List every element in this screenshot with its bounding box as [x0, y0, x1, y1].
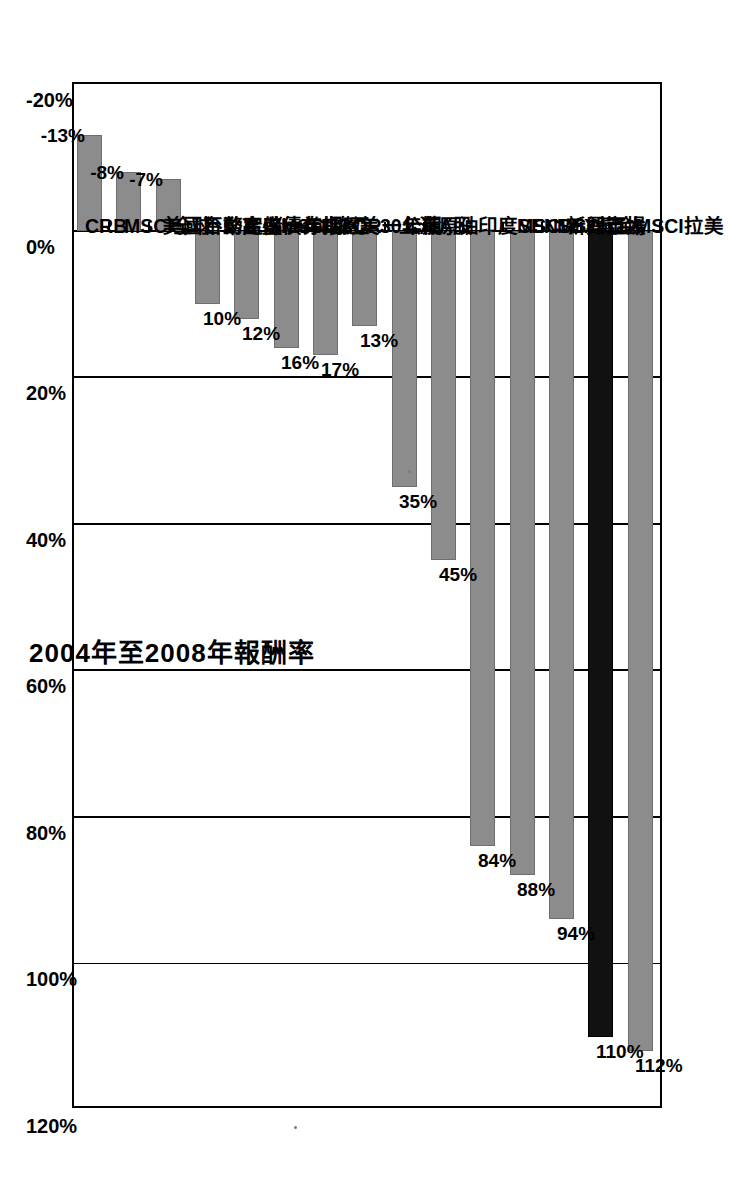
- value-axis-label: 80%: [26, 823, 66, 843]
- rotated-chart-canvas: CRBMSCI全球美國不動產iShare台幣定儲一年期高盛債券指數MSCI歐亞L…: [0, 0, 729, 1192]
- bar: [313, 231, 338, 356]
- value-axis-label: 0%: [26, 237, 55, 257]
- value-label: 112%: [635, 1056, 683, 1075]
- value-label: 84%: [478, 851, 516, 870]
- value-label: 94%: [557, 924, 595, 943]
- value-label: 16%: [281, 353, 319, 372]
- bar: [471, 231, 496, 847]
- scan-artifact-dot: [294, 1126, 297, 1129]
- bar: [392, 231, 417, 488]
- chart-title: 2004年至2008年報酬率: [29, 640, 315, 666]
- value-axis-label: 20%: [26, 383, 66, 403]
- bar: [589, 231, 614, 1037]
- bar: [353, 231, 378, 326]
- value-label: -13%: [40, 126, 84, 145]
- category-label: MSCI拉美: [635, 217, 724, 237]
- value-label: 88%: [517, 880, 555, 899]
- value-label: 10%: [203, 309, 241, 328]
- value-axis-label: 40%: [26, 530, 66, 550]
- gridline: [74, 963, 660, 965]
- bar-chart: CRBMSCI全球美國不動產iShare台幣定儲一年期高盛債券指數MSCI歐亞L…: [0, 0, 729, 1192]
- value-label: 35%: [399, 492, 437, 511]
- bar: [549, 231, 574, 920]
- scan-artifact-dot: [408, 470, 411, 473]
- category-label: 原油: [439, 217, 479, 237]
- category-label: CRB: [85, 217, 127, 237]
- value-label: -8%: [90, 163, 124, 182]
- bar: [195, 231, 220, 304]
- value-axis-label: 120%: [26, 1116, 77, 1136]
- value-label: 13%: [360, 331, 398, 350]
- value-label: -7%: [130, 170, 164, 189]
- value-axis-label: 100%: [26, 969, 77, 989]
- category-label: 黃金: [596, 217, 636, 237]
- bar: [235, 231, 260, 319]
- value-axis-label: -20%: [26, 90, 73, 110]
- bar: [510, 231, 535, 876]
- value-axis-label: 60%: [26, 676, 66, 696]
- value-label: 12%: [242, 324, 280, 343]
- value-label: 45%: [439, 565, 477, 584]
- bar: [628, 231, 653, 1052]
- value-label: 17%: [321, 360, 359, 379]
